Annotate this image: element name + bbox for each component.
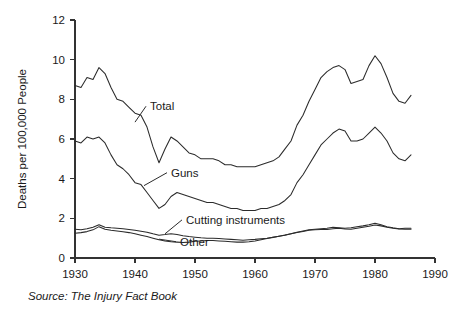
annotation-label-total: Total bbox=[150, 100, 174, 112]
chart-figure: 024681012 1930194019501960197019801990 T… bbox=[0, 0, 474, 312]
y-tick-label: 8 bbox=[59, 93, 65, 105]
annotation-leader-line bbox=[144, 173, 167, 186]
y-axis: 024681012 bbox=[52, 14, 75, 264]
y-tick-label: 12 bbox=[52, 14, 65, 26]
series-line-guns bbox=[75, 127, 411, 210]
y-axis-title: Deaths per 100,000 People bbox=[16, 69, 28, 209]
x-tick-label: 1940 bbox=[122, 268, 148, 280]
x-axis: 1930194019501960197019801990 bbox=[62, 258, 448, 280]
annotation-leader-line bbox=[165, 220, 182, 234]
annotation-label-cutting-instruments: Cutting instruments bbox=[186, 214, 285, 226]
y-tick-label: 0 bbox=[59, 252, 65, 264]
y-tick-label: 10 bbox=[52, 54, 65, 66]
y-tick-label: 2 bbox=[59, 212, 65, 224]
annotation-label-other: Other bbox=[180, 236, 209, 248]
y-tick-label: 6 bbox=[59, 133, 65, 145]
annotation-label-guns: Guns bbox=[171, 167, 199, 179]
x-tick-label: 1950 bbox=[182, 268, 208, 280]
x-tick-label: 1960 bbox=[242, 268, 268, 280]
series-line-total bbox=[75, 56, 411, 167]
x-tick-label: 1930 bbox=[62, 268, 88, 280]
line-chart-canvas: 024681012 1930194019501960197019801990 T… bbox=[0, 0, 474, 312]
source-note: Source: The Injury Fact Book bbox=[28, 290, 177, 302]
x-tick-label: 1990 bbox=[422, 268, 448, 280]
x-tick-label: 1980 bbox=[362, 268, 388, 280]
series-annotations: TotalGunsCutting instrumentsOther bbox=[135, 100, 285, 247]
x-tick-label: 1970 bbox=[302, 268, 328, 280]
y-tick-label: 4 bbox=[59, 173, 66, 185]
